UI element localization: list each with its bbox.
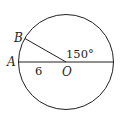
point-o-label: O	[62, 65, 72, 79]
angle-label: 150°	[66, 47, 94, 61]
circle-diagram: B A O 6 150°	[0, 0, 125, 118]
radius-ob-line	[25, 39, 66, 63]
point-a-label: A	[6, 55, 16, 69]
radius-length-label: 6	[35, 64, 42, 78]
point-b-label: B	[13, 31, 23, 45]
